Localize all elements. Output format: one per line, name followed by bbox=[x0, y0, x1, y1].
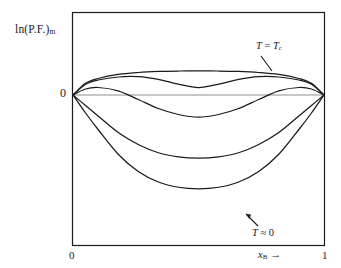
leader-line-critical-temperature bbox=[261, 56, 272, 71]
curve-t-t-c bbox=[73, 71, 324, 95]
curve-group bbox=[73, 71, 324, 189]
plot-area bbox=[0, 0, 341, 268]
plot-frame bbox=[73, 13, 325, 246]
curve-curve-3 bbox=[73, 87, 324, 117]
curve-t-0 bbox=[73, 95, 324, 189]
curve-curve-2 bbox=[73, 76, 324, 95]
figure-container: ln(P.F.)m 0 0 1 xB→ T = Tc T ≈ 0 bbox=[0, 0, 341, 268]
curve-curve-mid bbox=[73, 95, 324, 158]
